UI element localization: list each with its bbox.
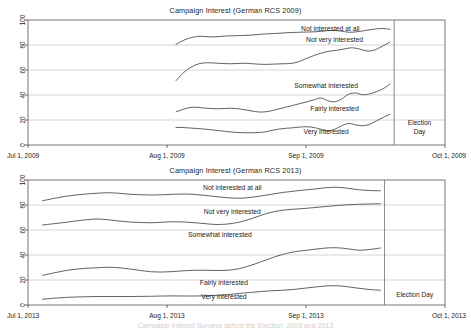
ytick-label-80: 80 <box>19 41 26 49</box>
series-label-2: Somewhat interested <box>294 82 358 89</box>
chart-figure-2009: Campaign Interest (German RCS 2009) 0204… <box>0 0 471 162</box>
series-label-3: Fairly interested <box>310 105 359 113</box>
ytick-label-40: 40 <box>19 91 26 99</box>
election-day-label-line-0: Election Day <box>396 291 434 299</box>
series-line-1 <box>176 42 390 81</box>
chart-title-2009: Campaign Interest (German RCS 2009) <box>0 6 471 15</box>
series-line-3 <box>176 114 390 133</box>
series-line-2 <box>43 248 381 276</box>
chart-title-2013: Campaign Interest (German RCS 2013) <box>0 166 471 175</box>
xtick-label-1: Aug 1, 2009 <box>149 152 185 160</box>
election-day-label-line-1: Day <box>414 128 426 136</box>
chart-canvas-2013: 020406080100Not interested at allNot ver… <box>0 162 471 322</box>
series-label-1: Not very interested <box>306 36 363 44</box>
ytick-label-20: 20 <box>19 116 26 124</box>
chart-canvas-2009: 020406080100Not interested at allNot ver… <box>0 0 471 162</box>
xtick-label-3: Oct 1, 2009 <box>432 152 466 159</box>
series-label-4: Very interested <box>201 293 247 301</box>
ytick-label-0: 0 <box>19 143 26 147</box>
xtick-label-2: Sep 1, 2013 <box>288 312 324 320</box>
series-label-4: Very interested <box>303 128 349 136</box>
series-label-1: Not very interested <box>204 208 261 216</box>
ytick-label-0: 0 <box>19 303 26 307</box>
series-label-3: Fairly interested <box>200 279 249 287</box>
ytick-label-100: 100 <box>19 174 26 185</box>
ytick-label-20: 20 <box>19 276 26 284</box>
ytick-label-80: 80 <box>19 201 26 209</box>
xtick-label-0: Jul 1, 2009 <box>7 152 40 159</box>
xtick-label-2: Sep 1, 2009 <box>288 152 324 160</box>
plot-frame <box>28 180 445 305</box>
chart-figure-2013: Campaign Interest (German RCS 2013) 0204… <box>0 162 471 322</box>
election-day-label-line-0: Election <box>408 119 432 126</box>
xtick-label-3: Oct 1, 2013 <box>432 312 466 319</box>
figure-caption: Campaign Interest Surveys before the Ele… <box>0 322 471 329</box>
xtick-label-1: Aug 1, 2013 <box>149 312 185 320</box>
series-label-2: Somewhat interested <box>188 231 252 238</box>
series-label-0: Not interested at all <box>203 184 262 191</box>
series-label-0: Not interested at all <box>301 25 360 32</box>
ytick-label-100: 100 <box>19 14 26 25</box>
xtick-label-0: Jul 1, 2013 <box>7 312 40 319</box>
ytick-label-60: 60 <box>19 226 26 234</box>
plot-frame <box>28 20 445 145</box>
ytick-label-40: 40 <box>19 251 26 259</box>
ytick-label-60: 60 <box>19 66 26 74</box>
